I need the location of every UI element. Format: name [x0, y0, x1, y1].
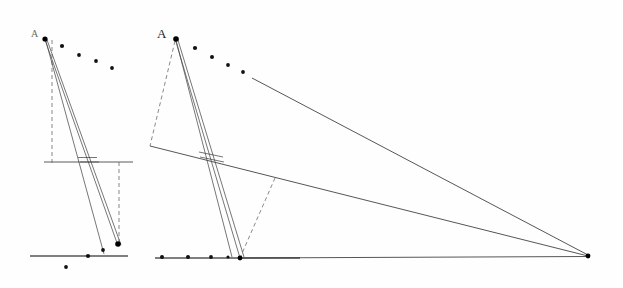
left-apex-point: [42, 36, 47, 41]
right-trace-segment-upper: [199, 152, 223, 157]
right-station-dashed-line: [240, 178, 275, 258]
right-arc-point: [193, 46, 197, 50]
right-upper-convergent-ray: [252, 78, 588, 255]
diagram-canvas: A: [0, 0, 623, 288]
left-ground-point: [101, 248, 105, 252]
left-ground-point: [86, 254, 90, 258]
right-ground-point: [186, 255, 190, 259]
left-arc-point: [110, 66, 114, 70]
right-station-point: [238, 256, 243, 261]
left-arc-point: [94, 59, 98, 63]
left-arc-point: [60, 44, 64, 48]
right-figure-group: A: [150, 26, 590, 260]
right-arc-point: [241, 70, 245, 74]
right-vanishing-point: [586, 254, 591, 259]
right-arc-point: [226, 63, 230, 67]
left-arc-point: [77, 53, 81, 57]
left-ground-point: [64, 265, 68, 269]
right-arc-point: [210, 55, 214, 59]
right-ground-point: [209, 255, 213, 259]
right-apex-dashed-line: [150, 41, 175, 146]
right-ray-inner: [178, 39, 245, 258]
left-convergence-point: [115, 241, 121, 247]
left-apex-label: A: [31, 28, 39, 39]
left-figure-group: A: [30, 28, 133, 269]
right-ground-point: [226, 255, 229, 258]
right-apex-label: A: [157, 26, 167, 41]
left-ray-secondary: [46, 40, 105, 255]
right-ray-secondary: [176, 40, 232, 257]
right-horizon-line: [150, 146, 588, 256]
geometry-figure-svg: A: [0, 0, 623, 288]
left-ray-outer: [45, 39, 118, 244]
right-apex-point: [173, 36, 179, 42]
right-ground-point: [160, 255, 164, 259]
right-ray-outer: [175, 39, 240, 259]
left-ray-inner: [47, 39, 122, 246]
